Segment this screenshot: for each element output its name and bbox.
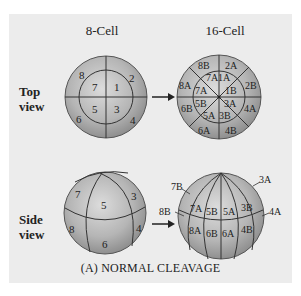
svg-text:6: 6 [76, 113, 82, 125]
arrow-icon [152, 93, 175, 101]
svg-text:6: 6 [102, 238, 108, 250]
svg-text:5: 5 [101, 199, 107, 211]
svg-text:3: 3 [131, 190, 137, 202]
svg-text:2B: 2B [245, 80, 257, 91]
svg-text:7A: 7A [190, 203, 203, 214]
svg-text:4B: 4B [241, 224, 253, 235]
side-view-8-cell-embryo: 7 5 3 8 6 4 [64, 172, 146, 254]
svg-text:2: 2 [129, 72, 135, 84]
top-view-8-cell-embryo: 8 2 6 4 7 1 5 3 [65, 56, 147, 138]
svg-text:5A: 5A [223, 206, 236, 217]
svg-text:5B: 5B [206, 206, 218, 217]
svg-text:5B: 5B [195, 98, 207, 109]
svg-text:3B: 3B [219, 110, 231, 121]
figure-caption: (A) NORMAL CLEAVAGE [0, 261, 301, 276]
arrow-icon [152, 220, 175, 228]
svg-text:4: 4 [130, 114, 136, 126]
svg-text:5: 5 [92, 103, 98, 115]
svg-text:1A: 1A [218, 72, 231, 83]
svg-text:7: 7 [92, 81, 98, 93]
svg-text:4B: 4B [225, 125, 237, 136]
svg-text:4A: 4A [244, 103, 257, 114]
svg-text:6B: 6B [206, 228, 218, 239]
svg-text:6A: 6A [198, 125, 211, 136]
cleavage-diagram: 8 2 6 4 7 1 5 3 8B 2A 2B 4A 4B 6A 6B 8A … [0, 0, 301, 296]
svg-text:3A: 3A [224, 98, 237, 109]
svg-text:8A: 8A [189, 225, 202, 236]
svg-text:8B: 8B [198, 60, 210, 71]
side-view-16-cell-embryo: 7A 5B 5A 3B 8A 6B 6A 4B 7B 8B 3A 4A [159, 173, 282, 259]
top-view-16-cell-embryo: 8B 2A 2B 4A 4B 6A 6B 8A 7A 1A 1B 3A 3B 5… [177, 55, 261, 139]
svg-text:8A: 8A [179, 80, 192, 91]
svg-text:2A: 2A [225, 60, 238, 71]
svg-text:1B: 1B [225, 85, 237, 96]
svg-text:7: 7 [75, 188, 81, 200]
svg-text:6A: 6A [222, 228, 235, 239]
svg-text:8B: 8B [159, 206, 171, 217]
svg-text:6B: 6B [181, 103, 193, 114]
svg-text:8: 8 [79, 69, 85, 81]
svg-text:4A: 4A [269, 206, 282, 217]
svg-text:3B: 3B [241, 202, 253, 213]
svg-text:7B: 7B [171, 181, 183, 192]
svg-text:8: 8 [69, 223, 75, 235]
svg-text:3A: 3A [259, 174, 272, 185]
svg-text:5A: 5A [203, 110, 216, 121]
svg-text:4: 4 [136, 222, 142, 234]
svg-text:3: 3 [114, 103, 120, 115]
svg-text:7A: 7A [195, 85, 208, 96]
svg-text:1: 1 [114, 81, 120, 93]
